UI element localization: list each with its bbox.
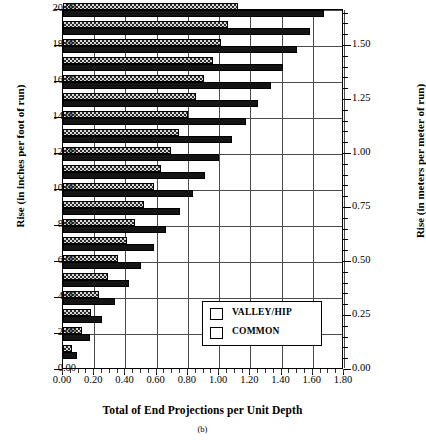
x-minor-tick-mark [117,369,118,373]
bar-common [63,208,180,215]
y-axis-label-left: Rise (in inches per foot of run) [14,26,26,286]
x-minor-tick-mark [288,369,289,373]
y-tick-label-right: 0.25 [352,308,392,319]
y-minor-tick-right [343,207,348,208]
y-tick-mark-left [54,45,62,46]
x-minor-tick-mark [187,369,188,373]
y-minor-tick-right [343,142,348,143]
bar-valley-hip [63,39,221,46]
x-minor-tick-mark [124,369,125,373]
bar-valley-hip [63,75,204,82]
x-minor-tick-mark [265,369,266,373]
bar-common [63,316,102,323]
y-minor-tick-right [343,229,348,230]
y-minor-tick-right [343,358,348,359]
bar-common [63,64,283,71]
y-tick-mark-left [54,81,62,82]
y-minor-tick-right [343,45,348,46]
y-minor-tick-right [343,164,348,165]
bar-valley-hip [63,201,144,208]
x-axis-label: Total of End Projections per Unit Depth [62,404,343,416]
bar-common [63,226,166,233]
y-tick-mark-left [54,117,62,118]
y-minor-tick-right [343,88,348,89]
y-minor-tick-right [343,196,348,197]
bar-valley-hip [63,111,188,118]
y-minor-tick-right [343,34,348,35]
y-tick-label-left: 4.00 [30,290,76,301]
checkered-swatch-icon [210,308,223,320]
x-minor-tick-mark [132,369,133,373]
bar-common [63,118,246,125]
bar-valley-hip [63,3,238,10]
figure-caption: (b) [62,424,343,434]
x-minor-tick-mark [195,369,196,373]
x-minor-tick-mark [257,369,258,373]
x-minor-tick-mark [327,369,328,373]
bar-common [63,172,205,179]
bar-valley-hip [63,309,91,316]
y-tick-label-left: 6.00 [30,254,76,265]
x-minor-tick-mark [156,369,157,373]
x-minor-tick-mark [335,369,336,373]
x-minor-tick-mark [109,369,110,373]
y-tick-mark-left [54,369,62,370]
y-tick-label-left: 12.00 [30,146,76,157]
x-minor-tick-mark [203,369,204,373]
y-minor-tick-right [343,239,348,240]
x-minor-tick-mark [171,369,172,373]
y-tick-mark-left [54,333,62,334]
y-minor-tick-right [343,315,348,316]
y-tick-label-left: 18.00 [30,38,76,49]
y-minor-tick-right [343,347,348,348]
y-tick-label-right: 0.75 [352,200,392,211]
y-tick-label-left: 2.00 [30,326,76,337]
y-minor-tick-right [343,283,348,284]
y-minor-tick-right [343,185,348,186]
legend-label: VALLEY/HIP [232,307,292,317]
y-tick-mark-left [54,261,62,262]
y-tick-label-right: 0.00 [352,362,392,373]
y-tick-label-right: 1.00 [352,146,392,157]
bar-valley-hip [63,273,108,280]
bar-valley-hip [63,183,154,190]
bar-valley-hip [63,165,161,172]
bar-common [63,352,77,359]
y-minor-tick-right [343,121,348,122]
x-minor-tick-mark [70,369,71,373]
x-minor-tick-mark [320,369,321,373]
bar-common [63,190,193,197]
y-tick-mark-left [54,189,62,190]
x-minor-tick-mark [249,369,250,373]
y-tick-mark-left [54,225,62,226]
x-minor-tick-mark [210,369,211,373]
y-tick-label-left: 8.00 [30,218,76,229]
y-minor-tick-right [343,13,348,14]
x-minor-tick-mark [304,369,305,373]
y-minor-tick-right [343,175,348,176]
x-minor-tick-mark [234,369,235,373]
y-minor-tick-right [343,23,348,24]
solid-swatch-icon [210,327,223,339]
x-minor-tick-mark [312,369,313,373]
bar-common [63,10,324,17]
x-minor-tick-mark [148,369,149,373]
y-minor-tick-right [343,77,348,78]
bar-valley-hip [63,21,228,28]
y-tick-mark-left [54,153,62,154]
x-minor-tick-mark [78,369,79,373]
y-tick-mark-left [54,9,62,10]
bar-valley-hip [63,237,127,244]
x-minor-tick-mark [179,369,180,373]
bar-common [63,100,258,107]
y-minor-tick-right [343,293,348,294]
bar-common [63,244,154,251]
y-tick-label-left: 14.00 [30,110,76,121]
bar-common [63,28,310,35]
x-minor-tick-mark [85,369,86,373]
legend-label: COMMON [232,326,280,336]
y-minor-tick-right [343,261,348,262]
x-minor-tick-mark [242,369,243,373]
bar-valley-hip [63,345,72,352]
